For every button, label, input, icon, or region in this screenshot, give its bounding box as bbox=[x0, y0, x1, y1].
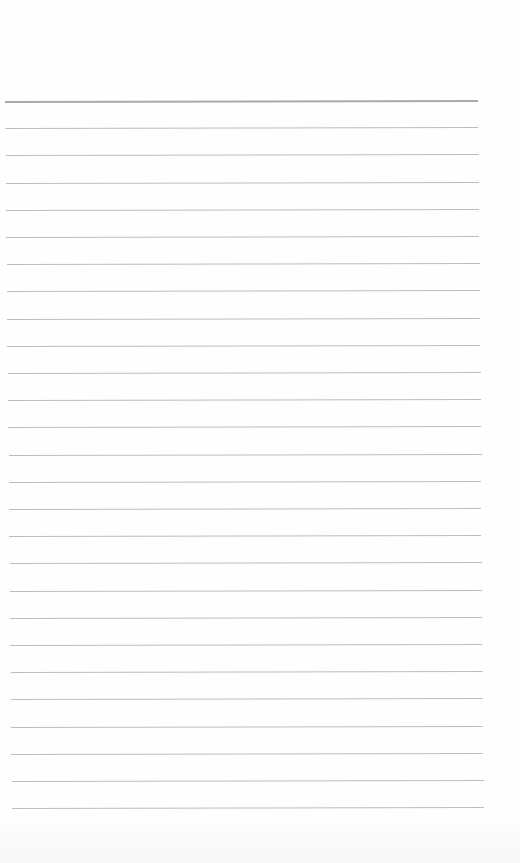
rule-line bbox=[7, 290, 480, 292]
rule-line bbox=[6, 182, 479, 184]
rule-line bbox=[10, 644, 482, 646]
rule-line bbox=[10, 562, 482, 564]
rule-line bbox=[8, 426, 481, 428]
rule-line bbox=[8, 399, 481, 401]
rule-line bbox=[11, 726, 483, 728]
rule-line bbox=[8, 454, 481, 456]
rule-line bbox=[12, 780, 484, 782]
header-rule-line bbox=[5, 100, 478, 103]
rule-line bbox=[6, 154, 479, 156]
rule-line bbox=[9, 508, 481, 510]
rule-line bbox=[5, 127, 478, 129]
rule-line bbox=[6, 236, 479, 238]
rule-line bbox=[6, 209, 479, 211]
rule-line bbox=[7, 263, 480, 265]
rule-line bbox=[11, 671, 483, 673]
rule-line bbox=[7, 345, 480, 347]
rule-line bbox=[11, 753, 483, 755]
rule-line bbox=[9, 481, 481, 483]
rule-line bbox=[10, 590, 482, 592]
lined-paper-page bbox=[0, 0, 520, 863]
rule-line bbox=[10, 617, 482, 619]
rule-line bbox=[8, 372, 481, 374]
rule-line bbox=[7, 318, 480, 320]
rule-line bbox=[12, 807, 484, 809]
paper-shadow bbox=[0, 813, 520, 863]
rule-line bbox=[9, 535, 481, 537]
rule-line bbox=[11, 698, 483, 700]
